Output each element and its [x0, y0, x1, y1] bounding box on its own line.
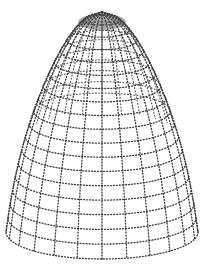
wireframe-figure [0, 0, 205, 273]
silhouette-right [102, 12, 198, 232]
meridian [34, 12, 102, 251]
meridian [102, 12, 170, 251]
paraboloid-mesh [0, 0, 205, 273]
meridian [102, 12, 198, 232]
meridian [6, 12, 102, 232]
meridian [102, 12, 195, 239]
silhouette-left [6, 12, 102, 232]
meridian [9, 12, 102, 239]
